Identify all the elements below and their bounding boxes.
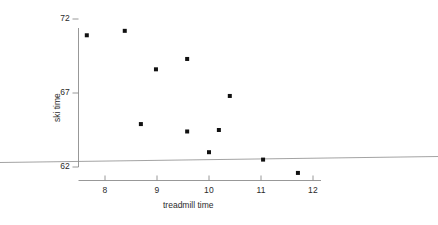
data-point: [228, 94, 232, 98]
x-axis: [79, 176, 322, 181]
y-tick-label: 72: [48, 13, 70, 23]
y-axis-title: ski time: [52, 93, 62, 122]
data-point: [185, 57, 189, 61]
x-tick-label: 8: [90, 185, 120, 195]
scatter-plot-figure: 726762 89101112 ski time treadmill time: [0, 0, 438, 225]
data-point: [217, 128, 221, 132]
x-tick-label: 10: [194, 185, 224, 195]
data-point: [296, 171, 300, 175]
data-point: [123, 29, 127, 33]
x-tick-label: 9: [142, 185, 172, 195]
x-axis-title: treadmill time: [163, 200, 214, 210]
data-points-group: [85, 29, 300, 175]
y-tick-label: 62: [48, 161, 70, 171]
x-tick-label: 11: [246, 185, 276, 195]
data-point: [154, 67, 158, 71]
data-point: [207, 150, 211, 154]
data-point: [185, 129, 189, 133]
data-point: [139, 122, 143, 126]
y-axis: [73, 19, 79, 167]
data-point: [85, 33, 89, 37]
data-point: [261, 158, 265, 162]
x-tick-label: 12: [298, 185, 328, 195]
